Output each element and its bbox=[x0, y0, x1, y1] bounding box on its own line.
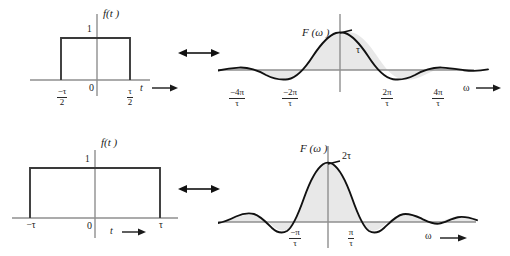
sinc-fill-area bbox=[220, 161, 476, 230]
tick-denominator: τ bbox=[284, 239, 306, 248]
tick-numerator: −τ bbox=[57, 87, 68, 98]
tick-denominator: 2 bbox=[122, 98, 138, 107]
tick-numerator: π bbox=[348, 228, 355, 239]
tick-numerator: −2π bbox=[282, 88, 298, 99]
t-axis-arrow-head bbox=[138, 229, 146, 236]
bottom-left-tick-right: τ bbox=[154, 220, 168, 230]
bottom-right-tick-pluspi: π τ bbox=[343, 222, 359, 248]
tick-denominator: τ bbox=[224, 99, 250, 108]
top-right-tick-plus2pi: 2π τ bbox=[376, 82, 398, 108]
top-right-peak-label: τ bbox=[356, 44, 360, 55]
top-left-ylabel: f(t ) bbox=[103, 7, 119, 19]
bottom-right-tick-minuspi: −π τ bbox=[284, 222, 306, 248]
bottom-left-tick-left: −τ bbox=[22, 220, 40, 230]
bottom-left-origin-label: 0 bbox=[87, 220, 92, 231]
bottom-right-ylabel: F (ω ) bbox=[300, 142, 327, 154]
rect-pulse-curve bbox=[61, 38, 130, 80]
figure-canvas: f(t ) 1 0 t −τ 2 τ 2 F (ω ) τ ω −4π τ bbox=[0, 0, 510, 256]
tick-numerator: −4π bbox=[229, 88, 245, 99]
top-right-tick-minus4pi: −4π τ bbox=[224, 82, 250, 108]
panel-top-right bbox=[218, 0, 510, 128]
arrow-head-left bbox=[178, 49, 187, 57]
tick-denominator: τ bbox=[427, 99, 449, 108]
tick-denominator: 2 bbox=[52, 98, 72, 107]
panel-bottom-right bbox=[218, 128, 510, 256]
tick-denominator: τ bbox=[277, 99, 303, 108]
pair-arrow-top bbox=[178, 44, 220, 62]
bottom-right-peak-label: 2τ bbox=[342, 150, 351, 161]
panel-bottom-left bbox=[0, 128, 200, 256]
top-left-origin-label: 0 bbox=[89, 82, 94, 93]
top-right-tick-plus4pi: 4π τ bbox=[427, 82, 449, 108]
top-right-xlabel: ω bbox=[463, 82, 470, 93]
tick-denominator: τ bbox=[343, 239, 359, 248]
panel-top-left bbox=[0, 0, 200, 128]
pair-arrow-bottom bbox=[178, 180, 220, 198]
top-left-tick-right: τ 2 bbox=[122, 81, 138, 107]
bottom-left-amplitude-label: 1 bbox=[85, 154, 90, 164]
bottom-left-xlabel: t bbox=[110, 225, 113, 236]
t-axis-arrow-head bbox=[170, 85, 178, 92]
top-left-amplitude-label: 1 bbox=[87, 24, 92, 34]
tick-numerator: −π bbox=[289, 228, 301, 239]
top-left-xlabel: t bbox=[140, 82, 143, 93]
tick-numerator: 4π bbox=[432, 88, 443, 99]
top-right-ylabel: F (ω ) bbox=[302, 26, 329, 38]
top-right-tick-minus2pi: −2π τ bbox=[277, 82, 303, 108]
bottom-right-xlabel: ω bbox=[425, 230, 432, 241]
arrow-head-left bbox=[178, 185, 187, 193]
tick-denominator: τ bbox=[376, 99, 398, 108]
top-left-tick-left: −τ 2 bbox=[52, 81, 72, 107]
tick-numerator: 2π bbox=[381, 88, 392, 99]
omega-axis-arrow-head bbox=[493, 85, 501, 92]
tick-numerator: τ bbox=[127, 87, 133, 98]
omega-axis-arrow-head bbox=[458, 235, 467, 242]
bottom-left-ylabel: f(t ) bbox=[101, 136, 117, 148]
